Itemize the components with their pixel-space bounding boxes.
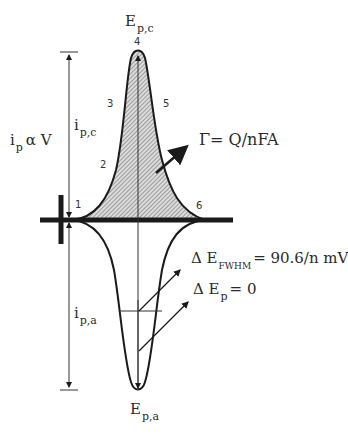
ip-rest: α V bbox=[26, 131, 52, 149]
point-6: 6 bbox=[196, 201, 202, 211]
anodic-peak-current-label: ip,a bbox=[74, 306, 97, 321]
cathodic-peak-current-label: ip,c bbox=[74, 118, 97, 133]
ip-sub: p bbox=[16, 141, 23, 154]
surface-coverage-equation: Γ= Q/nFA bbox=[199, 132, 279, 148]
point-2: 2 bbox=[100, 160, 106, 170]
anodic-peak-potential-label: Ep,a bbox=[130, 402, 159, 417]
epc-main: E bbox=[125, 12, 136, 30]
ipa-main: i bbox=[74, 304, 79, 322]
dep-prefix: Δ E bbox=[193, 280, 220, 298]
cathodic-peak-potential-label: Ep,c bbox=[125, 14, 154, 29]
fwhm-rest: = 90.6/n mV bbox=[253, 249, 348, 267]
ipa-sub: p,a bbox=[80, 314, 97, 327]
peak-separation-equation: Δ Ep= 0 bbox=[193, 282, 257, 297]
epa-sub: p,a bbox=[142, 410, 159, 423]
fwhm-equation: Δ EFWHM= 90.6/n mV bbox=[191, 251, 348, 266]
ipc-sub: p,c bbox=[80, 126, 97, 139]
dep-sub: p bbox=[221, 290, 228, 303]
dep-rest: = 0 bbox=[230, 280, 257, 298]
ip-main: i bbox=[10, 131, 15, 149]
current-proportional-label: ipα V bbox=[10, 133, 52, 148]
epa-main: E bbox=[130, 400, 141, 418]
point-3: 3 bbox=[107, 99, 113, 109]
fwhm-sub: FWHM bbox=[219, 261, 252, 271]
fwhm-prefix: Δ E bbox=[191, 249, 218, 267]
point-5: 5 bbox=[163, 99, 169, 109]
point-1: 1 bbox=[75, 200, 81, 210]
peak-separation-arrow bbox=[139, 302, 188, 351]
point-4: 4 bbox=[134, 37, 140, 47]
ipc-main: i bbox=[74, 116, 79, 134]
fwhm-arrow bbox=[139, 270, 180, 311]
epc-sub: p,c bbox=[137, 22, 154, 35]
